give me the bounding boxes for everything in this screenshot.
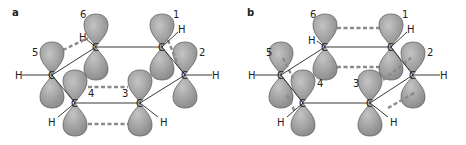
svg-text:H: H	[160, 117, 168, 128]
svg-text:C: C	[387, 42, 394, 53]
svg-text:H: H	[440, 70, 448, 81]
svg-text:3: 3	[122, 88, 128, 99]
svg-text:5: 5	[266, 47, 272, 58]
svg-text:C: C	[71, 98, 78, 109]
svg-text:C: C	[299, 98, 306, 109]
svg-text:C: C	[321, 42, 328, 53]
svg-text:C: C	[158, 42, 165, 53]
panel-label: b	[247, 7, 254, 18]
svg-text:C: C	[181, 70, 188, 81]
svg-text:2: 2	[199, 47, 205, 58]
svg-text:1: 1	[402, 9, 408, 20]
hydrogen-labels: H H H H H H	[15, 24, 220, 128]
svg-text:H: H	[178, 24, 186, 35]
svg-text:C: C	[277, 70, 284, 81]
svg-text:3: 3	[353, 78, 359, 89]
svg-text:H: H	[248, 70, 256, 81]
svg-text:5: 5	[32, 47, 38, 58]
svg-text:C: C	[409, 70, 416, 81]
svg-text:1: 1	[173, 9, 179, 20]
svg-text:C: C	[92, 42, 99, 53]
svg-text:H: H	[308, 35, 316, 46]
svg-text:6: 6	[310, 9, 316, 20]
panel-b: b C C C C	[247, 7, 448, 136]
benzene-orbital-diagram: a C C C	[0, 0, 466, 145]
svg-text:4: 4	[88, 88, 94, 99]
svg-text:C: C	[366, 98, 373, 109]
svg-text:H: H	[15, 70, 23, 81]
svg-text:H: H	[277, 117, 285, 128]
svg-text:H: H	[48, 117, 56, 128]
svg-text:C: C	[136, 98, 143, 109]
svg-text:H: H	[79, 32, 87, 43]
svg-text:C: C	[48, 70, 55, 81]
svg-text:2: 2	[427, 47, 433, 58]
panel-a: a C C C	[12, 7, 220, 136]
svg-text:H: H	[390, 117, 398, 128]
svg-text:6: 6	[80, 9, 86, 20]
panel-label: a	[12, 7, 19, 18]
svg-text:H: H	[407, 24, 415, 35]
svg-text:H: H	[212, 70, 220, 81]
svg-text:4: 4	[317, 78, 323, 89]
